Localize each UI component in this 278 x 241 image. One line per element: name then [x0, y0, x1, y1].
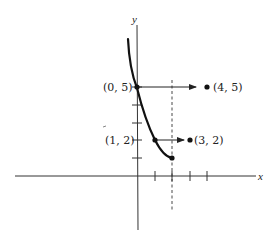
stray-mark	[103, 126, 106, 127]
point-3-2	[187, 137, 192, 142]
label-4-5: (4, 5)	[213, 81, 243, 94]
label-3-2: (3, 2)	[194, 134, 224, 147]
y-axis	[137, 25, 138, 230]
diagram-canvas: x y (0, 5) (1, 2) (4, 5) (3, 2)	[0, 0, 278, 241]
y-axis-label: y	[131, 13, 137, 25]
label-1-2: (1, 2)	[105, 134, 135, 147]
point-4-5	[204, 84, 209, 89]
label-0-5: (0, 5)	[103, 81, 133, 94]
point-curve-end	[169, 155, 174, 160]
point-0-5	[134, 84, 139, 89]
x-axis-label: x	[257, 170, 263, 182]
point-1-2	[152, 137, 157, 142]
